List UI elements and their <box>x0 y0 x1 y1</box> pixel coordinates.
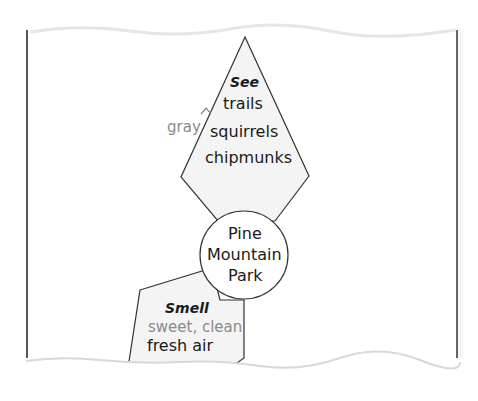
see-insertion-gray: gray <box>167 118 201 136</box>
smell-insertion: sweet, clean <box>148 318 242 336</box>
smell-item-fresh-air: fresh air <box>147 336 213 355</box>
center-line-1: Pine <box>228 224 262 243</box>
smell-heading: Smell <box>165 300 209 316</box>
caret-icon <box>201 108 211 114</box>
see-item-chipmunks: chipmunks <box>205 148 292 167</box>
center-line-3: Park <box>228 266 263 285</box>
sensory-web-diagram <box>0 0 478 401</box>
see-heading: See <box>230 74 259 90</box>
torn-top-edge <box>30 25 456 36</box>
see-item-squirrels: squirrels <box>210 122 278 141</box>
see-item-trails: trails <box>223 94 263 113</box>
center-line-2: Mountain <box>207 245 282 264</box>
